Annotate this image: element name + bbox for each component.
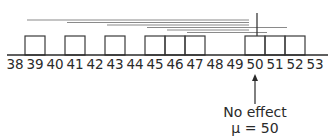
tick-label: 46 xyxy=(166,56,183,72)
tick-label: 49 xyxy=(226,56,243,72)
tick-label: 47 xyxy=(186,56,203,72)
tick-label: 42 xyxy=(86,56,103,72)
interval-lines xyxy=(27,20,287,33)
observation-box xyxy=(65,36,85,55)
tick-label: 39 xyxy=(26,56,43,72)
observation-box xyxy=(265,36,285,55)
tick-label: 41 xyxy=(66,56,83,72)
observation-box xyxy=(285,36,305,55)
annotation-mu-value: μ = 50 xyxy=(231,120,278,136)
observation-boxes xyxy=(25,36,305,55)
observation-box xyxy=(245,36,265,55)
observation-box xyxy=(145,36,165,55)
axis-tick-labels: 38394041424344454647484950515253 xyxy=(6,56,323,72)
tick-label: 40 xyxy=(46,56,63,72)
tick-label: 45 xyxy=(146,56,163,72)
tick-label: 51 xyxy=(266,56,283,72)
number-line-diagram: 38394041424344454647484950515253 No effe… xyxy=(0,0,335,138)
arrowhead-icon xyxy=(252,74,258,81)
tick-label: 48 xyxy=(206,56,223,72)
observation-box xyxy=(185,36,205,55)
annotation-label: No effect xyxy=(223,104,287,120)
observation-box xyxy=(25,36,45,55)
observation-box xyxy=(165,36,185,55)
tick-label: 52 xyxy=(286,56,303,72)
tick-label: 43 xyxy=(106,56,123,72)
tick-label: 44 xyxy=(126,56,143,72)
no-effect-annotation: No effect μ = 50 xyxy=(223,74,287,136)
tick-label: 50 xyxy=(246,56,263,72)
tick-label: 53 xyxy=(306,56,323,72)
tick-label: 38 xyxy=(6,56,23,72)
observation-box xyxy=(105,36,125,55)
